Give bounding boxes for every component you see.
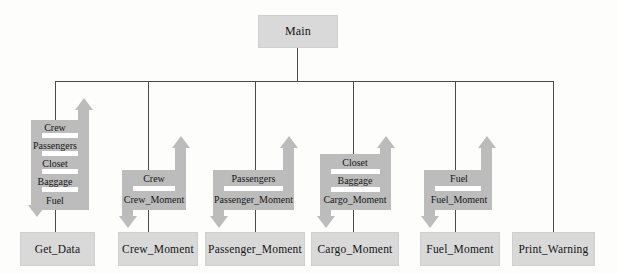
coupling-arrow-down-fuel-moment-head [421, 216, 439, 228]
coupling-arrow-up-cargo-moment-head [377, 136, 395, 148]
coupling-label-fuel: Fuel [20, 196, 90, 206]
coupling-slit [133, 186, 175, 191]
coupling-label-passengers-in: Passengers [206, 174, 301, 184]
coupling-slit [42, 133, 78, 138]
coupling-label-crew-in: Crew [116, 174, 192, 184]
coupling-arrow-down-passenger-moment-head [210, 216, 228, 228]
coupling-label-baggage-in: Baggage [312, 176, 398, 186]
module-passenger-moment[interactable]: Passenger_Moment [205, 232, 305, 266]
coupling-arrow-up-get-data-head [75, 98, 93, 110]
module-crew-moment[interactable]: Crew_Moment [118, 232, 198, 266]
coupling-slit [42, 187, 78, 192]
coupling-label-cargo-moment-out: Cargo_Moment [306, 195, 404, 205]
coupling-arrow-down-cargo-moment-head [317, 216, 335, 228]
coupling-slit [331, 187, 380, 192]
structure-chart-canvas: Main Crew Passengers Closet Baggage Fuel… [0, 0, 617, 274]
module-get-data[interactable]: Get_Data [20, 232, 95, 266]
coupling-slit [42, 169, 78, 174]
module-cargo-moment[interactable]: Cargo_Moment [311, 232, 399, 266]
coupling-label-fuel-moment-out: Fuel_Moment [414, 195, 504, 205]
connector-drop-fuel-moment [455, 81, 456, 241]
coupling-arrow-up-fuel-moment-head [478, 136, 496, 148]
module-main[interactable]: Main [258, 15, 338, 48]
coupling-slit [224, 186, 283, 191]
coupling-slit [42, 151, 78, 156]
coupling-label-fuel-in: Fuel [420, 174, 498, 184]
coupling-label-passengers: Passengers [20, 141, 90, 151]
coupling-slit [331, 169, 380, 174]
coupling-label-baggage: Baggage [20, 177, 90, 187]
connector-main-stem [297, 48, 298, 81]
coupling-arrow-down-crew-moment-head [119, 216, 137, 228]
coupling-label-closet-in: Closet [312, 158, 398, 168]
coupling-arrow-up-crew-moment-head [172, 136, 190, 148]
module-print-warning[interactable]: Print_Warning [512, 232, 595, 266]
connector-bus [55, 81, 554, 82]
module-fuel-moment[interactable]: Fuel_Moment [420, 232, 500, 266]
coupling-label-crew: Crew [20, 123, 90, 133]
coupling-label-passenger-moment-out: Passenger_Moment [203, 195, 304, 205]
coupling-arrow-up-passenger-moment-head [280, 136, 298, 148]
coupling-label-crew-moment-out: Crew_Moment [112, 195, 196, 205]
connector-drop-print-warning [553, 81, 554, 233]
connector-drop-crew-moment [148, 81, 149, 241]
connector-drop-passenger-moment [255, 81, 256, 241]
coupling-slit [435, 186, 481, 191]
coupling-label-closet: Closet [20, 159, 90, 169]
